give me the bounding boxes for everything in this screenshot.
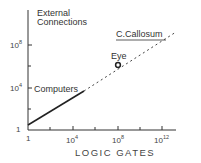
log-log-chart: External Connections 108 104 1 1 104 108… — [0, 0, 201, 163]
x-axis-label: LOGIC GATES — [75, 147, 155, 158]
y-tick-1e4: 104 — [10, 82, 22, 93]
x-tick-1: 1 — [26, 134, 30, 143]
eye-marker-icon — [116, 63, 121, 68]
y-axis-label-line2: Connections — [37, 17, 87, 27]
y-tick-1: 1 — [16, 125, 20, 134]
y-axis-ticks — [28, 45, 32, 109]
y-tick-1e8: 108 — [10, 39, 22, 50]
x-axis-ticks — [50, 126, 162, 130]
callosum-label: C.Callosum — [116, 29, 163, 39]
extrapolation-dashed-line — [84, 32, 176, 91]
eye-label: Eye — [111, 51, 127, 61]
computers-line — [28, 91, 84, 125]
x-tick-1e8: 108 — [112, 134, 124, 145]
computers-label: Computers — [34, 84, 78, 94]
x-tick-1e4: 104 — [66, 134, 78, 145]
x-tick-1e12: 1012 — [154, 134, 169, 145]
